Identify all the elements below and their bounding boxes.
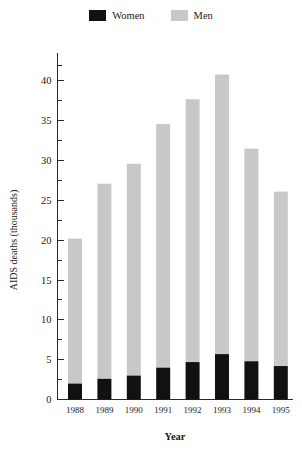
x-tick-label: 1988 bbox=[66, 405, 85, 415]
bar-segment-women bbox=[127, 376, 141, 400]
y-tick-label: 30 bbox=[41, 155, 52, 166]
bar-segment-men bbox=[68, 239, 82, 384]
y-tick-label: 20 bbox=[41, 235, 52, 246]
bar-segment-women bbox=[244, 361, 258, 399]
chart-plot-area: AIDS deaths (thousands) 0510152025303540… bbox=[0, 0, 302, 457]
bar-segment-women bbox=[215, 354, 229, 399]
y-axis-title: AIDS deaths (thousands) bbox=[8, 190, 20, 291]
x-tick-label: 1991 bbox=[154, 405, 172, 415]
bar-segment-men bbox=[186, 99, 200, 362]
y-tick-label: 0 bbox=[46, 394, 51, 405]
y-tick-label: 5 bbox=[46, 354, 51, 365]
bar-segment-women bbox=[274, 366, 288, 399]
x-tick-label: 1993 bbox=[213, 405, 232, 415]
bar-segment-women bbox=[186, 362, 200, 399]
bar-segment-women bbox=[97, 379, 111, 400]
y-tick-label: 40 bbox=[41, 75, 52, 86]
x-axis-title: Year bbox=[165, 431, 186, 442]
y-tick-label: 10 bbox=[41, 314, 52, 325]
bar-segment-women bbox=[68, 384, 82, 400]
bar-segment-men bbox=[156, 124, 170, 368]
bar-segment-men bbox=[127, 164, 141, 376]
x-tick-label: 1989 bbox=[95, 405, 114, 415]
bar-segment-men bbox=[97, 184, 111, 379]
bar-segment-men bbox=[215, 75, 229, 355]
y-tick-label: 35 bbox=[41, 115, 52, 126]
bar-segment-men bbox=[244, 149, 258, 362]
x-tick-label: 1995 bbox=[272, 405, 291, 415]
y-tick-label: 15 bbox=[41, 275, 52, 286]
bar-segment-men bbox=[274, 192, 288, 366]
y-axis-ticks: 0510152025303540 bbox=[41, 65, 64, 405]
bar-segment-women bbox=[156, 368, 170, 400]
x-axis-ticks: 19881989199019911992199319941995 bbox=[66, 405, 290, 415]
bar-group bbox=[68, 75, 288, 400]
x-tick-label: 1994 bbox=[242, 405, 261, 415]
y-tick-label: 25 bbox=[41, 195, 52, 206]
x-tick-label: 1992 bbox=[184, 405, 202, 415]
x-tick-label: 1990 bbox=[125, 405, 144, 415]
